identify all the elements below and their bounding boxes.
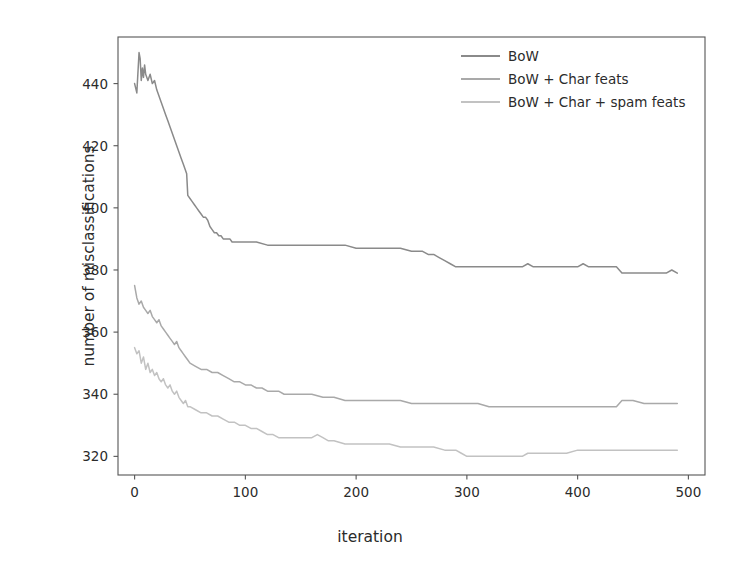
x-tick-label: 0 xyxy=(130,484,139,500)
legend-label-0: BoW xyxy=(508,48,539,64)
x-tick-label: 200 xyxy=(343,484,369,500)
legend-label-1: BoW + Char feats xyxy=(508,71,629,87)
figure-background xyxy=(0,0,740,569)
x-tick-label: 300 xyxy=(454,484,480,500)
y-axis-label: number of misclassifications xyxy=(80,46,98,466)
x-axis-label: iteration xyxy=(0,528,740,546)
x-tick-label: 500 xyxy=(675,484,701,500)
chart-canvas xyxy=(0,0,740,569)
chart-figure: 320340360380400420440 0100200300400500 i… xyxy=(0,0,740,569)
y-axis-label-wrapper: number of misclassifications xyxy=(80,46,100,466)
legend-label-2: BoW + Char + spam feats xyxy=(508,94,685,110)
x-tick-label: 100 xyxy=(232,484,258,500)
x-tick-label: 400 xyxy=(565,484,591,500)
